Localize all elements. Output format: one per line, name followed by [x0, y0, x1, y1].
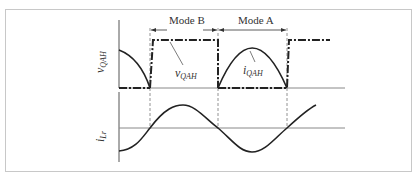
mode-b-span [151, 28, 217, 32]
mode-a-label: Mode A [238, 14, 274, 26]
mode-b-label: Mode B [169, 14, 205, 26]
mode-a-span [219, 28, 286, 32]
lower-y-axis-label: iLr [93, 130, 108, 142]
i-qah-annotation: iQAH [243, 63, 264, 78]
v-qah-leader [170, 42, 183, 65]
i-qah-leader [250, 51, 255, 62]
svg-text:iLr: iLr [93, 130, 108, 142]
upper-y-axis-label: vQAH [93, 50, 108, 73]
v-qah-trace [150, 40, 330, 88]
svg-text:vQAH: vQAH [93, 50, 108, 73]
i-qah-trace-start [119, 50, 150, 88]
v-qah-annotation: vQAH [175, 66, 198, 81]
waveform-diagram: Mode B Mode A vQAH vQAH iQAH iLr [0, 0, 417, 178]
i-qah-trace [218, 48, 287, 88]
